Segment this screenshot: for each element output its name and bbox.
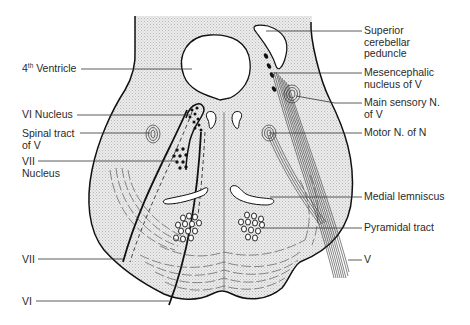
label-v: V: [364, 254, 371, 266]
label-spinal-tract-v: Spinal tractof V: [22, 128, 75, 151]
label-vi-nucleus: VI Nucleus: [22, 109, 73, 121]
label-vi: VI: [22, 296, 32, 308]
label-motor-n: Motor N. of N: [364, 127, 426, 139]
label-main-sensory-n-v: Main sensory N.of V: [364, 97, 440, 120]
label-vii: VII: [22, 254, 35, 266]
label-medial-lemniscus: Medial lemniscus: [364, 191, 445, 203]
label-mesencephalic-nucleus-v: Mesencephalicnucleus of V: [364, 67, 434, 90]
label-pyramidal-tract: Pyramidal tract: [364, 222, 434, 234]
label-vii-nucleus: VIINucleus: [22, 156, 60, 179]
label-superior-cerebellar-peduncle: Superiorcerebellarpeduncle: [364, 25, 410, 60]
label-fourth-ventricle: 4th Ventricle: [22, 63, 76, 75]
